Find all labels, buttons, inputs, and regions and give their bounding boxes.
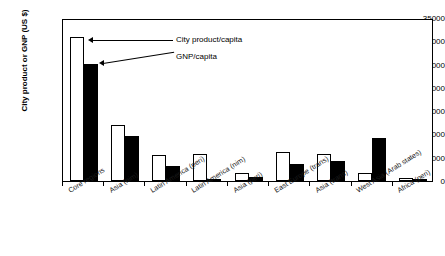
x-tick-mark [227, 182, 228, 186]
bar-group [70, 18, 98, 181]
x-tick-mark [144, 182, 145, 186]
x-tick-mark [103, 182, 104, 186]
annotation-label-gnp: GNP/capita [176, 52, 217, 61]
x-tick-mark [186, 182, 187, 186]
x-tick-mark [268, 182, 269, 186]
x-tick-mark [351, 182, 352, 186]
annotation-label-city-product: City product/capita [176, 35, 242, 44]
x-tick-mark [309, 182, 310, 186]
x-tick-mark [392, 182, 393, 186]
annotation-line-city-product [92, 40, 173, 41]
bar-chart: City product or GNP (US $) 3500030000250… [0, 0, 445, 256]
bar-group [111, 18, 139, 181]
bar-group [358, 18, 386, 181]
y-axis-title: City product or GNP (US $) [20, 0, 29, 141]
bar-gnp [84, 64, 98, 181]
bar-city-product [111, 125, 125, 181]
plot-area [62, 19, 433, 182]
bar-city-product [70, 37, 84, 181]
x-tick-mark [62, 182, 63, 186]
bar-group [276, 18, 304, 181]
